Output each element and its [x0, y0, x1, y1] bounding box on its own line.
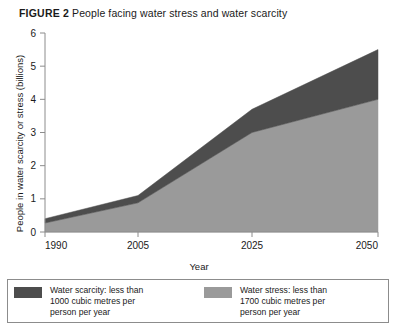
legend-label-water-stress: Water stress: less than 1700 cubic metre…	[240, 285, 390, 319]
x-tick-label: 1990	[45, 240, 68, 251]
legend-label-water-scarcity: Water scarcity: less than 1000 cubic met…	[50, 285, 200, 319]
y-tick-label: 2	[30, 160, 36, 171]
legend-item-water-stress: Water stress: less than 1700 cubic metre…	[204, 285, 390, 319]
x-axis-ticks: 1990200520252050	[45, 232, 378, 251]
legend-item-water-scarcity: Water scarcity: less than 1000 cubic met…	[14, 285, 200, 319]
x-tick-label: 2050	[356, 240, 379, 251]
legend-swatch-water-scarcity	[14, 287, 42, 298]
y-tick-label: 1	[30, 193, 36, 204]
legend-swatch-water-stress	[204, 287, 232, 298]
y-tick-label: 0	[30, 227, 36, 238]
chart-legend: Water scarcity: less than 1000 cubic met…	[7, 279, 389, 323]
stacked-area-chart: 0123456 1990200520252050	[0, 22, 398, 272]
y-axis-title: People in water scarcity or stress (bill…	[14, 39, 25, 249]
y-tick-label: 5	[30, 61, 36, 72]
x-tick-label: 2005	[127, 240, 150, 251]
chart-plot-area: 0123456 1990200520252050 People in water…	[0, 22, 398, 272]
figure-container: FIGURE 2 People facing water stress and …	[0, 0, 398, 330]
y-tick-label: 4	[30, 94, 36, 105]
area-series-group	[45, 50, 378, 232]
y-tick-label: 6	[30, 28, 36, 39]
x-axis-title: Year	[0, 261, 398, 272]
figure-number: FIGURE 2	[19, 7, 69, 19]
figure-title: FIGURE 2 People facing water stress and …	[19, 7, 287, 20]
y-axis-ticks: 0123456	[30, 28, 45, 238]
x-tick-label: 2025	[241, 240, 264, 251]
y-tick-label: 3	[30, 127, 36, 138]
figure-caption: People facing water stress and water sca…	[72, 7, 287, 19]
